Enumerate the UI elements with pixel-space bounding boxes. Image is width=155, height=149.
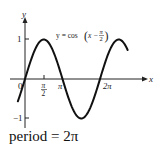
period-caption: period = 2π [9,128,78,145]
equation-frac-num: π [100,28,104,35]
equation-paren-close: ) [105,29,109,43]
equation-frac-den: 2 [100,35,103,42]
x-tick-label-pi-half-den: 2 [42,89,46,98]
equation-prefix: y = cos [56,31,78,40]
y-tick-label-1: 1 [17,34,22,44]
equation-label: y = cos ( x − π 2 ) [56,28,109,43]
x-axis-arrow-icon [142,77,148,82]
x-tick-label-two-pi: 2π [103,81,112,91]
x-tick-label-pi: π [58,81,63,91]
x-axis-label: x [148,74,153,84]
y-tick-label-neg-1: −1 [13,113,23,123]
y-axis-label: y [21,9,26,19]
cosine-graph: x y 1 −1 0 π 2 π 2π y = cos ( x − π 2 ) [0,0,155,149]
equation-inner: x − [87,31,98,40]
